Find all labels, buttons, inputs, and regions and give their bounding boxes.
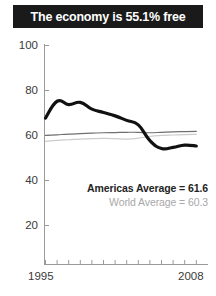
y-tick-label-60: 60 (25, 129, 38, 141)
x-axis-ticks (46, 260, 197, 265)
y-tick-label-20: 20 (25, 219, 38, 231)
series-line-world-average (46, 134, 197, 141)
series-line-country-score (46, 100, 197, 149)
legend-world-average: World Average = 60.3 (60, 196, 208, 209)
y-tick-label-40: 40 (25, 174, 38, 186)
y-tick-label-100: 100 (19, 39, 38, 51)
x-tick-label-1995: 1995 (28, 270, 54, 282)
legend-americas-average: Americas Average = 61.6 (60, 182, 208, 195)
series-group (46, 100, 197, 149)
x-tick-label-2008: 2008 (178, 270, 204, 282)
plot-area: 100 80 60 40 20 1995 2008 Americas Avera… (0, 0, 216, 296)
chart-legend: Americas Average = 61.6 World Average = … (60, 182, 208, 209)
economic-freedom-chart-card: The economy is 55.1% free (0, 0, 216, 296)
y-tick-label-80: 80 (25, 84, 38, 96)
